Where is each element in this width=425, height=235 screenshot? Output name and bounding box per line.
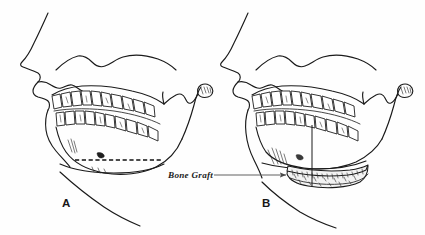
figure-root: A — [0, 0, 425, 235]
tooth-upper-1 — [52, 94, 62, 109]
tooth-lower-6 — [105, 114, 115, 128]
tooth-upper-7 — [311, 94, 323, 109]
tooth-upper-3 — [71, 91, 82, 106]
bone-graft-label: Bone Graft — [167, 170, 213, 180]
mandible-graft-illustration: A — [0, 0, 425, 235]
tooth-upper-2 — [261, 92, 272, 107]
tooth-upper-7 — [111, 94, 123, 109]
tooth-upper-5 — [291, 91, 302, 106]
tooth-lower-5 — [295, 112, 305, 126]
tooth-lower-4 — [85, 111, 95, 125]
tooth-lower-2 — [65, 111, 75, 125]
tooth-upper-1 — [252, 94, 262, 109]
tooth-upper-5 — [91, 91, 102, 106]
tooth-lower-2 — [265, 111, 275, 125]
tooth-lower-3 — [275, 111, 285, 124]
tooth-lower-6 — [305, 114, 315, 128]
panel-letter-a: A — [62, 197, 71, 209]
tooth-lower-4 — [285, 111, 295, 125]
tooth-upper-3 — [271, 91, 282, 106]
panel-letter-b: B — [262, 197, 271, 209]
tooth-upper-2 — [61, 92, 72, 107]
tooth-lower-5 — [95, 112, 105, 126]
tooth-lower-3 — [75, 111, 85, 124]
